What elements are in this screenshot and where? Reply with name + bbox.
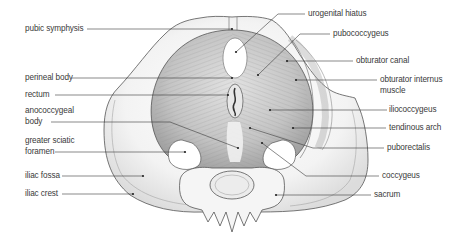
urogenital-hiatus-opening xyxy=(223,38,247,78)
label-anococcygeal-line2: body xyxy=(25,117,74,127)
label-obturator-internus-muscle: obturator internus muscle xyxy=(380,75,442,96)
rectum-shape xyxy=(227,84,243,118)
label-iliac-crest: iliac crest xyxy=(25,189,58,199)
label-obturator-internus-line1: obturator internus xyxy=(380,75,442,85)
label-greater-sciatic-foramen: greater sciatic foramen xyxy=(25,136,74,157)
label-tendinous-arch: tendinous arch xyxy=(389,123,441,133)
label-puborectalis: puborectalis xyxy=(387,143,430,153)
sacrum-bone xyxy=(180,167,285,232)
label-obturator-canal: obturator canal xyxy=(356,56,409,66)
label-anococcygeal-body: anococcygeal body xyxy=(25,106,74,127)
label-coccygeus: coccygeus xyxy=(382,171,420,181)
label-pubococcygeus: pubococcygeus xyxy=(333,29,389,39)
label-rectum: rectum xyxy=(25,90,49,100)
label-anococcygeal-line1: anococcygeal xyxy=(25,106,74,116)
label-greater-sciatic-line1: greater sciatic xyxy=(25,136,74,146)
pelvic-floor-diagram: pubic symphysis perineal body rectum ano… xyxy=(0,0,464,235)
label-sacrum: sacrum xyxy=(374,190,400,200)
label-iliac-fossa: iliac fossa xyxy=(25,171,60,181)
label-pubic-symphysis: pubic symphysis xyxy=(25,24,84,34)
label-iliococcygeus: iliococcygeus xyxy=(389,105,436,115)
label-perineal-body: perineal body xyxy=(25,73,73,83)
label-urogenital-hiatus: urogenital hiatus xyxy=(308,9,366,19)
label-greater-sciatic-line2: foramen xyxy=(25,147,74,157)
label-obturator-internus-line2: muscle xyxy=(380,86,442,96)
